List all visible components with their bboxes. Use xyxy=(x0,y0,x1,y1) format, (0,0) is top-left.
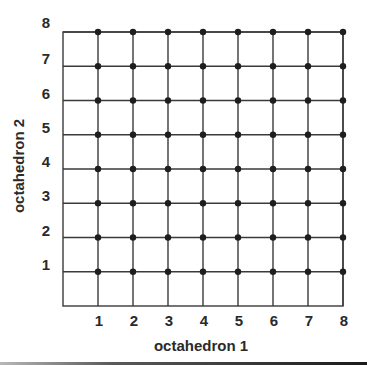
x-tick-label: 1 xyxy=(95,312,103,329)
data-point xyxy=(235,132,241,138)
x-tick-label: 8 xyxy=(340,312,348,329)
data-point xyxy=(200,29,206,35)
data-point xyxy=(305,97,311,103)
data-point xyxy=(95,166,101,172)
data-point xyxy=(340,97,346,103)
x-tick-label: 6 xyxy=(270,312,278,329)
data-point xyxy=(200,97,206,103)
data-point xyxy=(305,166,311,172)
data-point xyxy=(165,166,171,172)
y-tick-label: 5 xyxy=(42,119,50,136)
data-point xyxy=(95,97,101,103)
data-point xyxy=(235,200,241,206)
data-point xyxy=(95,234,101,240)
y-tick-label: 1 xyxy=(42,256,50,273)
data-point xyxy=(200,200,206,206)
data-point xyxy=(130,166,136,172)
data-point xyxy=(165,132,171,138)
data-point xyxy=(200,166,206,172)
data-point xyxy=(305,63,311,69)
data-point xyxy=(165,200,171,206)
x-axis-title: octahedron 1 xyxy=(154,337,248,354)
data-point xyxy=(165,269,171,275)
data-point xyxy=(130,234,136,240)
data-point xyxy=(95,132,101,138)
data-point xyxy=(305,200,311,206)
data-point xyxy=(270,234,276,240)
data-point xyxy=(95,63,101,69)
y-axis-title: octahedron 2 xyxy=(10,119,27,213)
data-point xyxy=(130,63,136,69)
data-point xyxy=(165,234,171,240)
x-axis-ticks: 12345678 xyxy=(95,312,348,329)
data-point xyxy=(165,63,171,69)
data-point xyxy=(235,97,241,103)
data-point xyxy=(165,29,171,35)
data-point xyxy=(130,200,136,206)
data-point xyxy=(130,132,136,138)
data-point xyxy=(165,97,171,103)
y-tick-label: 4 xyxy=(42,153,51,170)
data-point xyxy=(200,132,206,138)
y-tick-label: 3 xyxy=(42,187,50,204)
data-point xyxy=(95,200,101,206)
data-point xyxy=(95,29,101,35)
data-point xyxy=(340,63,346,69)
data-point xyxy=(200,63,206,69)
data-point xyxy=(305,234,311,240)
data-point xyxy=(235,29,241,35)
data-point xyxy=(340,132,346,138)
data-point xyxy=(270,29,276,35)
x-tick-label: 4 xyxy=(200,312,209,329)
data-point xyxy=(340,29,346,35)
data-point xyxy=(270,132,276,138)
data-point xyxy=(305,132,311,138)
data-point xyxy=(130,97,136,103)
x-tick-label: 5 xyxy=(235,312,243,329)
data-point xyxy=(340,234,346,240)
y-axis-ticks: 12345678 xyxy=(42,14,51,273)
y-tick-label: 2 xyxy=(42,222,50,239)
data-point xyxy=(235,166,241,172)
data-point xyxy=(235,269,241,275)
data-point xyxy=(340,166,346,172)
data-point xyxy=(200,234,206,240)
data-point xyxy=(235,63,241,69)
y-tick-label: 7 xyxy=(42,50,50,67)
data-point xyxy=(305,269,311,275)
data-point xyxy=(270,269,276,275)
data-point xyxy=(270,200,276,206)
x-tick-label: 3 xyxy=(165,312,173,329)
y-tick-label: 6 xyxy=(42,85,50,102)
x-tick-label: 2 xyxy=(130,312,138,329)
data-point xyxy=(270,97,276,103)
data-point xyxy=(305,29,311,35)
data-point xyxy=(130,29,136,35)
y-tick-label: 8 xyxy=(42,14,50,31)
data-point xyxy=(200,269,206,275)
data-point xyxy=(95,269,101,275)
data-point xyxy=(340,200,346,206)
data-point xyxy=(340,269,346,275)
chart-plot: 12345678 12345678 octahedron 1 octahedro… xyxy=(0,0,367,365)
x-tick-label: 7 xyxy=(305,312,313,329)
data-point xyxy=(235,234,241,240)
data-point xyxy=(270,63,276,69)
data-point xyxy=(270,166,276,172)
data-point xyxy=(130,269,136,275)
